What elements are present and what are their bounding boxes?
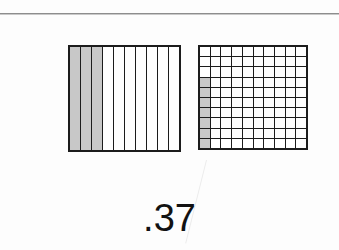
tenth-strip xyxy=(147,47,158,150)
hundredth-cell xyxy=(221,129,232,138)
hundredth-cell xyxy=(254,47,265,56)
hundredth-cell xyxy=(200,129,211,138)
hundredth-cell xyxy=(264,118,275,127)
hundredth-cell xyxy=(296,108,306,117)
hundredth-cell xyxy=(264,98,275,107)
hundredth-cell xyxy=(264,57,275,66)
hundredth-cell xyxy=(200,47,211,56)
hundredth-cell xyxy=(243,108,254,117)
hundredth-cell xyxy=(286,88,297,97)
tenth-strip xyxy=(169,47,179,150)
hundredth-cell xyxy=(275,78,286,87)
hundredth-cell xyxy=(296,118,306,127)
hundredth-cell xyxy=(243,139,254,148)
hundredth-cell xyxy=(286,118,297,127)
hundredth-cell xyxy=(275,129,286,138)
hundredth-cell xyxy=(211,88,222,97)
hundredth-cell xyxy=(221,108,232,117)
hundredth-cell xyxy=(254,129,265,138)
hundredth-cell xyxy=(286,108,297,117)
hundredth-cell xyxy=(221,98,232,107)
hundredth-cell xyxy=(296,129,306,138)
tenths-model xyxy=(68,45,181,152)
hundredth-cell xyxy=(221,139,232,148)
hundredth-cell xyxy=(275,98,286,107)
hundredths-grid-row xyxy=(200,88,306,98)
tenth-strip xyxy=(81,47,92,150)
hundredths-grid xyxy=(200,47,306,148)
hundredths-grid-row xyxy=(200,57,306,67)
hundredth-cell xyxy=(254,88,265,97)
hundredth-cell xyxy=(254,57,265,66)
hundredth-cell xyxy=(275,57,286,66)
hundredth-cell xyxy=(200,67,211,76)
hundredth-cell xyxy=(275,88,286,97)
hundredth-cell xyxy=(254,108,265,117)
hundredth-cell xyxy=(243,88,254,97)
hundredth-cell xyxy=(275,108,286,117)
tenths-strips xyxy=(70,47,179,150)
hundredth-cell xyxy=(221,47,232,56)
hundredth-cell xyxy=(275,118,286,127)
hundredth-cell xyxy=(243,129,254,138)
hundredth-cell xyxy=(296,139,306,148)
hundredth-cell xyxy=(232,88,243,97)
hundredth-cell xyxy=(286,139,297,148)
hundredth-cell xyxy=(286,98,297,107)
hundredths-grid-row xyxy=(200,129,306,139)
hundredth-cell xyxy=(211,118,222,127)
tenth-strip xyxy=(125,47,136,150)
hundredth-cell xyxy=(286,78,297,87)
hundredth-cell xyxy=(232,98,243,107)
hundredth-cell xyxy=(221,118,232,127)
hundredth-cell xyxy=(232,129,243,138)
hundredth-cell xyxy=(200,78,211,87)
tenth-strip xyxy=(158,47,169,150)
hundredth-cell xyxy=(211,57,222,66)
hundredth-cell xyxy=(243,57,254,66)
hundredth-cell xyxy=(243,47,254,56)
hundredth-cell xyxy=(264,88,275,97)
hundredth-cell xyxy=(286,67,297,76)
hundredth-cell xyxy=(275,47,286,56)
hundredths-grid-row xyxy=(200,118,306,128)
hundredth-cell xyxy=(221,78,232,87)
hundredths-model xyxy=(198,45,308,150)
hundredth-cell xyxy=(264,67,275,76)
hundredth-cell xyxy=(200,139,211,148)
tenth-strip xyxy=(103,47,114,150)
hundredth-cell xyxy=(221,88,232,97)
hundredth-cell xyxy=(200,98,211,107)
hundredth-cell xyxy=(232,47,243,56)
hundredths-grid-row xyxy=(200,108,306,118)
hundredth-cell xyxy=(296,78,306,87)
hundredth-cell xyxy=(275,67,286,76)
hundredth-cell xyxy=(296,88,306,97)
tenth-strip xyxy=(136,47,147,150)
hundredth-cell xyxy=(286,47,297,56)
hundredth-cell xyxy=(232,57,243,66)
hundredth-cell xyxy=(254,118,265,127)
hundredth-cell xyxy=(296,67,306,76)
hundredth-cell xyxy=(232,118,243,127)
hundredths-grid-row xyxy=(200,67,306,77)
hundredth-cell xyxy=(211,129,222,138)
hundredth-cell xyxy=(221,67,232,76)
hundredth-cell xyxy=(296,98,306,107)
hundredth-cell xyxy=(296,47,306,56)
hundredth-cell xyxy=(264,129,275,138)
hundredth-cell xyxy=(211,67,222,76)
models-row xyxy=(0,45,339,153)
hundredth-cell xyxy=(254,78,265,87)
tenth-strip xyxy=(70,47,81,150)
hundredth-cell xyxy=(243,118,254,127)
hundredth-cell xyxy=(243,67,254,76)
hundredth-cell xyxy=(275,139,286,148)
hundredth-cell xyxy=(211,78,222,87)
hundredth-cell xyxy=(200,88,211,97)
hundredth-cell xyxy=(243,78,254,87)
horizontal-rule-shadow xyxy=(0,14,339,15)
hundredth-cell xyxy=(200,108,211,117)
hundredth-cell xyxy=(254,98,265,107)
hundredths-grid-row xyxy=(200,98,306,108)
